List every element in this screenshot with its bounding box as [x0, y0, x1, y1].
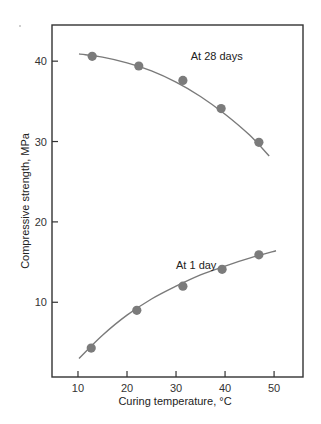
x-tick-label: 50 [268, 382, 280, 394]
y-axis-ticks: 10203040 [35, 55, 58, 308]
data-point [178, 282, 187, 291]
data-point [87, 343, 96, 352]
y-tick-label: 40 [35, 55, 47, 67]
y-tick-label: 20 [35, 216, 47, 228]
data-point [254, 138, 263, 147]
x-tick-label: 10 [72, 382, 84, 394]
chart: 10203040 1020304050 At 28 daysAt 1 day C… [0, 0, 321, 424]
series-at-1-day: At 1 day [79, 250, 276, 358]
x-axis-label: Curing temperature, °C [118, 395, 231, 407]
speck [19, 25, 21, 27]
series-annotation: At 28 days [191, 50, 243, 62]
data-point [134, 61, 143, 70]
y-tick-label: 10 [35, 296, 47, 308]
series-at-28-days: At 28 days [79, 50, 269, 156]
fit-curve [79, 54, 269, 156]
x-tick-label: 30 [170, 382, 182, 394]
series-layer: At 28 daysAt 1 day [79, 50, 276, 358]
x-axis-ticks: 1020304050 [72, 371, 280, 394]
plot-frame [52, 25, 303, 377]
y-tick-label: 30 [35, 136, 47, 148]
series-annotation: At 1 day [176, 259, 217, 271]
data-point [178, 76, 187, 85]
data-point [254, 250, 263, 259]
data-point [217, 104, 226, 113]
x-tick-label: 40 [219, 382, 231, 394]
data-point [132, 306, 141, 315]
data-point [218, 265, 227, 274]
y-axis-label: Compressive strength, MPa [19, 132, 31, 269]
data-point [88, 52, 97, 61]
x-tick-label: 20 [121, 382, 133, 394]
